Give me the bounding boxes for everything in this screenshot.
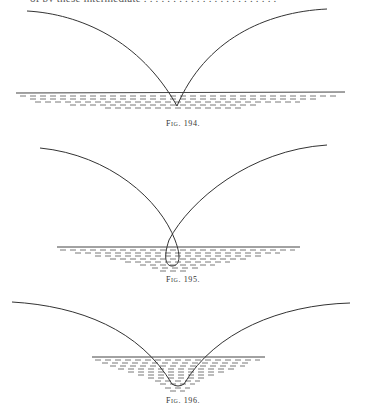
figure-196-drawing [0,0,367,410]
figure-195-caption: Fig. 195. [166,275,200,284]
figure-196-caption: Fig. 196. [166,396,200,405]
book-page: of by these intermediate . . . . . . . .… [0,0,367,410]
fig-196-curves [12,302,350,386]
figure-194-caption: Fig. 194. [166,119,200,128]
